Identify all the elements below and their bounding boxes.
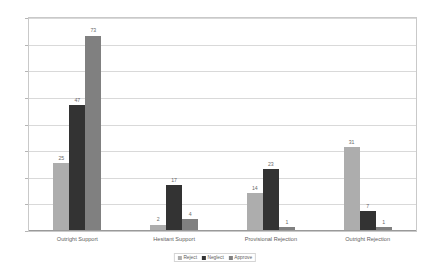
bar-slot: 2 [150,18,166,230]
bars-layer: 2547732174142313171 [29,18,416,230]
legend-label: Neglect [207,255,223,260]
bar-group: 3171 [344,18,392,230]
legend-item[interactable]: Approve [229,255,252,260]
legend-swatch-icon [229,256,233,260]
bar-value-label: 14 [252,186,258,191]
bar-slot: 25 [53,18,69,230]
bar[interactable] [360,211,376,230]
bar[interactable] [150,225,166,230]
legend-swatch-icon [178,256,182,260]
category-label: Outright Rejection [345,236,390,242]
bar-value-label: 31 [349,140,355,145]
bar[interactable] [85,36,101,230]
bar-slot: 1 [376,18,392,230]
legend-label: Approve [234,255,252,260]
bar-value-label: 7 [366,204,369,209]
legend-item[interactable]: Neglect [202,255,224,260]
legend-swatch-icon [202,256,206,260]
bar-group: 2174 [150,18,198,230]
bar[interactable] [182,219,198,230]
bar-slot: 73 [85,18,101,230]
bar[interactable] [247,193,263,230]
bar-chart: 01020304050607080 2547732174142313171 Ou… [0,0,430,275]
bar[interactable] [53,163,69,230]
bar-value-label: 17 [171,178,177,183]
bar[interactable] [69,105,85,230]
category-label: Hesitant Support [153,236,195,242]
bar-group: 14231 [247,18,295,230]
bar-value-label: 25 [58,156,64,161]
x-axis-baseline [29,230,416,231]
bar-value-label: 23 [268,162,274,167]
bar-slot: 1 [279,18,295,230]
bar-slot: 4 [182,18,198,230]
plot-area: 2547732174142313171 [28,17,417,232]
bar[interactable] [263,169,279,230]
category-label: Outright Support [57,236,98,242]
bar-slot: 17 [166,18,182,230]
legend-item[interactable]: Reject [178,255,197,260]
bar[interactable] [344,147,360,230]
bar-value-label: 1 [382,220,385,225]
bar-slot: 14 [247,18,263,230]
bar[interactable] [376,227,392,230]
bar-slot: 23 [263,18,279,230]
bar-value-label: 47 [74,98,80,103]
legend-label: Reject [183,255,197,260]
chart-legend: RejectNeglectApprove [174,253,256,262]
bar-value-label: 1 [285,220,288,225]
category-label: Provisional Rejection [245,236,297,242]
bar-value-label: 73 [90,28,96,33]
bar[interactable] [279,227,295,230]
bar-group: 254773 [53,18,101,230]
bar-slot: 7 [360,18,376,230]
bar-slot: 31 [344,18,360,230]
bar-value-label: 2 [157,217,160,222]
bar[interactable] [166,185,182,230]
bar-value-label: 4 [189,212,192,217]
bar-slot: 47 [69,18,85,230]
